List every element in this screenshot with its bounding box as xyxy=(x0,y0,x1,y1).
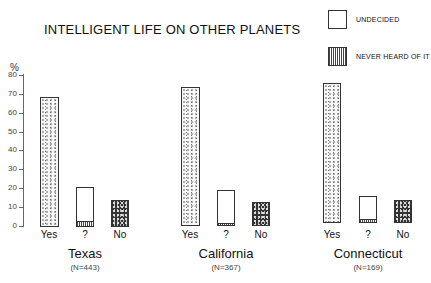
label-connecticut-yes: Yes xyxy=(317,229,347,240)
label-texas-yes: Yes xyxy=(34,229,64,240)
group-california-name: California xyxy=(176,246,276,261)
y-tick xyxy=(19,150,23,151)
group-california-n: (N=367) xyxy=(176,263,276,272)
y-tick-label: 20 xyxy=(0,183,17,192)
y-tick xyxy=(19,226,23,227)
label-california-no: No xyxy=(246,229,276,240)
y-tick-label: 80 xyxy=(0,70,17,79)
y-tick xyxy=(19,132,23,133)
chart-title: INTELLIGENT LIFE ON OTHER PLANETS xyxy=(44,22,300,37)
y-tick-label: 0 xyxy=(0,221,17,230)
y-tick-label: 50 xyxy=(0,127,17,136)
group-texas-name: Texas xyxy=(35,246,135,261)
label-texas-q: ? xyxy=(70,229,100,240)
bar-texas-yes xyxy=(40,97,59,227)
label-texas-no: No xyxy=(105,229,135,240)
y-tick xyxy=(19,188,23,189)
label-connecticut-q: ? xyxy=(353,229,383,240)
bar-texas-no xyxy=(111,200,129,227)
y-tick-label: 30 xyxy=(0,164,17,173)
label-california-q: ? xyxy=(211,229,241,240)
bar-california-undecided xyxy=(217,190,235,226)
y-axis xyxy=(23,74,24,227)
label-california-yes: Yes xyxy=(175,229,205,240)
y-tick xyxy=(19,207,23,208)
y-tick-label: 70 xyxy=(0,89,17,98)
group-texas-n: (N=443) xyxy=(35,263,135,272)
bar-california-no xyxy=(252,202,270,226)
bar-connecticut-yes xyxy=(323,83,341,223)
bar-connecticut-no xyxy=(394,200,412,223)
bar-texas-never-heard xyxy=(76,221,94,227)
legend-never-heard-swatch xyxy=(328,47,347,66)
bar-california-yes xyxy=(181,87,200,226)
label-connecticut-no: No xyxy=(388,229,418,240)
legend-undecided-label: UNDECIDED xyxy=(356,16,399,23)
y-tick xyxy=(19,113,23,114)
legend-never-heard-label: NEVER HEARD OF IT xyxy=(356,53,430,60)
y-tick-label: 60 xyxy=(0,108,17,117)
group-connecticut-n: (N=169) xyxy=(318,263,418,272)
bar-california-never-heard xyxy=(217,223,235,226)
y-tick xyxy=(19,75,23,76)
y-tick xyxy=(19,169,23,170)
legend-undecided-swatch xyxy=(328,10,347,29)
y-tick-label: 40 xyxy=(0,145,17,154)
y-tick-label: 10 xyxy=(0,202,17,211)
bar-connecticut-never-heard xyxy=(359,219,377,223)
group-connecticut-name: Connecticut xyxy=(318,246,418,261)
y-tick xyxy=(19,94,23,95)
